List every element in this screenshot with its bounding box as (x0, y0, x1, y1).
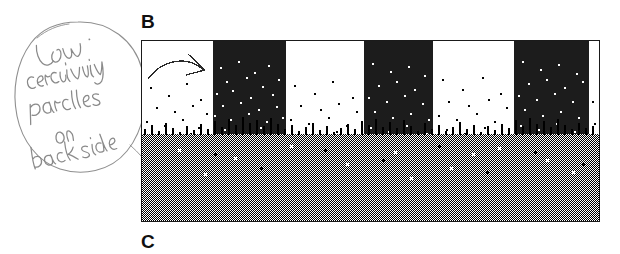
handwritten-annotation: Low coercivity particles on back side (6, 14, 156, 179)
substrate-dither (142, 134, 599, 221)
figure-root: B C (0, 0, 620, 254)
panel-label-c: C (141, 232, 155, 251)
micrograph-image (142, 41, 599, 221)
micrograph-panel-b (141, 40, 600, 222)
annotation-handwriting (25, 33, 117, 170)
